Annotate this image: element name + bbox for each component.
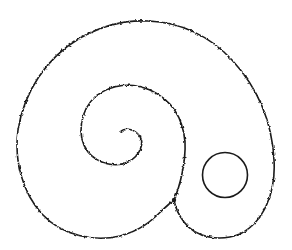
background xyxy=(0,0,292,250)
junction-point xyxy=(172,198,176,202)
shell-spiral-drawing xyxy=(0,0,292,250)
